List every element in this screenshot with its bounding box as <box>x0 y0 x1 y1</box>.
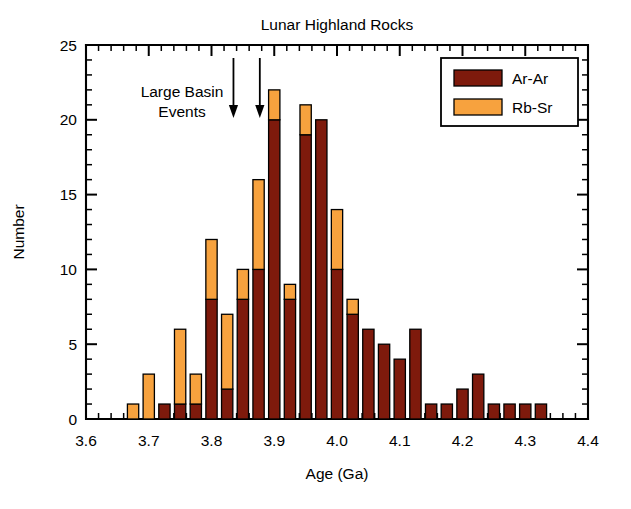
legend-label-rb-sr: Rb-Sr <box>512 99 552 116</box>
bar-segment-ar-ar <box>441 404 452 419</box>
bar-group <box>127 404 138 419</box>
x-tick-label: 3.6 <box>75 432 97 449</box>
bar-group <box>222 314 233 419</box>
bar-segment-rb-sr <box>190 374 201 404</box>
bar-segment-rb-sr <box>222 314 233 389</box>
bar-group <box>269 90 280 419</box>
bar-group <box>535 404 546 419</box>
bar-segment-ar-ar <box>363 329 374 419</box>
bar-segment-ar-ar <box>504 404 515 419</box>
bar-group <box>441 404 452 419</box>
bar-group <box>504 404 515 419</box>
bar-segment-ar-ar <box>206 299 217 419</box>
bar-group <box>425 404 436 419</box>
y-tick-label: 25 <box>60 37 77 54</box>
bar-segment-rb-sr <box>347 299 358 314</box>
y-tick-label: 10 <box>60 261 78 278</box>
bar-group <box>473 374 484 419</box>
bar-group <box>159 404 170 419</box>
bar-group <box>410 329 421 419</box>
bar-segment-ar-ar <box>535 404 546 419</box>
bar-segment-ar-ar <box>284 299 295 419</box>
bar-group <box>363 329 374 419</box>
bar-group <box>206 239 217 419</box>
legend-box <box>441 58 578 126</box>
y-axis-label: Number <box>10 204 27 259</box>
bar-segment-rb-sr <box>300 105 311 135</box>
bar-segment-rb-sr <box>174 329 185 404</box>
legend-swatch-rb-sr <box>454 99 502 115</box>
bar-segment-rb-sr <box>253 180 264 270</box>
bar-segment-ar-ar <box>473 374 484 419</box>
bar-segment-rb-sr <box>269 90 280 120</box>
x-tick-label: 3.8 <box>201 432 223 449</box>
bar-segment-ar-ar <box>378 344 389 419</box>
bar-segment-ar-ar <box>316 120 327 419</box>
x-tick-label: 4.4 <box>577 432 599 449</box>
chart-legend: Ar-Ar Rb-Sr <box>441 58 578 126</box>
bar-segment-ar-ar <box>174 404 185 419</box>
bar-segment-ar-ar <box>425 404 436 419</box>
bar-segment-ar-ar <box>237 299 248 419</box>
x-tick-label: 3.9 <box>263 432 285 449</box>
bar-segment-ar-ar <box>410 329 421 419</box>
bar-segment-ar-ar <box>457 389 468 419</box>
bar-group <box>253 180 264 419</box>
bar-group <box>394 359 405 419</box>
bar-segment-rb-sr <box>284 284 295 299</box>
bar-group <box>174 329 185 419</box>
bar-group <box>488 404 499 419</box>
bar-segment-ar-ar <box>222 389 233 419</box>
x-tick-label: 4.1 <box>389 432 411 449</box>
annotation-line-2: Events <box>158 103 206 120</box>
bar-segment-rb-sr <box>143 374 154 419</box>
bar-segment-ar-ar <box>269 120 280 419</box>
legend-swatch-ar-ar <box>454 70 502 86</box>
bar-segment-ar-ar <box>347 314 358 419</box>
bar-group <box>520 404 531 419</box>
bar-group <box>347 299 358 419</box>
annotation-line-1: Large Basin <box>141 83 224 100</box>
bar-segment-ar-ar <box>331 269 342 419</box>
bar-segment-ar-ar <box>190 404 201 419</box>
chart-figure: Lunar Highland Rocks 3.63.73.83.94.04.14… <box>0 0 631 509</box>
legend-label-ar-ar: Ar-Ar <box>512 70 548 87</box>
chart-title: Lunar Highland Rocks <box>261 16 414 33</box>
bar-segment-ar-ar <box>300 135 311 419</box>
y-tick-label: 20 <box>60 111 78 128</box>
bar-segment-ar-ar <box>394 359 405 419</box>
bar-group <box>457 389 468 419</box>
y-tick-label: 5 <box>68 336 77 353</box>
bar-group <box>378 344 389 419</box>
x-axis-label: Age (Ga) <box>306 465 369 482</box>
bar-group <box>190 374 201 419</box>
bar-segment-rb-sr <box>237 269 248 299</box>
bar-group <box>316 120 327 419</box>
bar-segment-ar-ar <box>488 404 499 419</box>
bar-segment-rb-sr <box>127 404 138 419</box>
x-tick-label: 4.2 <box>452 432 474 449</box>
bar-group <box>143 374 154 419</box>
bar-segment-ar-ar <box>520 404 531 419</box>
x-tick-label: 4.0 <box>326 432 348 449</box>
x-tick-label: 3.7 <box>138 432 160 449</box>
bar-group <box>237 269 248 419</box>
x-tick-label: 4.3 <box>514 432 536 449</box>
bar-group <box>284 284 295 419</box>
bar-group <box>300 105 311 419</box>
bar-segment-ar-ar <box>159 404 170 419</box>
bar-group <box>331 210 342 419</box>
bar-segment-ar-ar <box>253 269 264 419</box>
x-tick-labels: 3.63.73.83.94.04.14.24.34.4 <box>75 432 599 449</box>
bar-segment-rb-sr <box>331 210 342 270</box>
bar-segment-rb-sr <box>206 239 217 299</box>
y-tick-label: 0 <box>68 411 77 428</box>
y-tick-label: 15 <box>60 186 77 203</box>
